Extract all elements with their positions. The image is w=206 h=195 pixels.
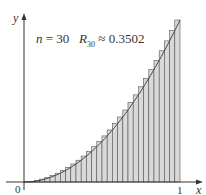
x-tick-0: 0: [15, 183, 21, 195]
riemann-rectangle: [92, 147, 97, 182]
n-label: n = 30: [36, 31, 69, 46]
riemann-rectangle: [128, 103, 133, 182]
riemann-rectangle: [170, 31, 175, 182]
riemann-rectangle: [86, 152, 91, 182]
riemann-rectangle: [123, 110, 128, 182]
riemann-rectangle: [107, 130, 112, 182]
x-axis-label: x: [196, 183, 201, 195]
riemann-rectangle: [154, 60, 159, 182]
r-label: R30 ≈ 0.3502: [79, 31, 144, 46]
riemann-rectangle: [144, 78, 149, 182]
riemann-rectangle: [112, 124, 117, 182]
x-tick-1: 1: [177, 184, 183, 195]
riemann-rectangle: [164, 41, 169, 182]
riemann-rectangle: [102, 136, 107, 182]
riemann-rectangle: [118, 117, 123, 182]
riemann-sum-chart: [0, 0, 206, 195]
riemann-rectangle: [133, 95, 138, 182]
y-axis-arrow-icon: [22, 13, 27, 20]
riemann-rectangle: [149, 70, 154, 182]
riemann-rectangle: [138, 87, 143, 182]
riemann-rectangle: [97, 142, 102, 183]
riemann-rectangle: [175, 20, 180, 182]
riemann-rectangle: [159, 51, 164, 182]
riemann-annotation: n = 30 R30 ≈ 0.3502: [36, 31, 144, 49]
y-axis-label: y: [13, 11, 18, 26]
